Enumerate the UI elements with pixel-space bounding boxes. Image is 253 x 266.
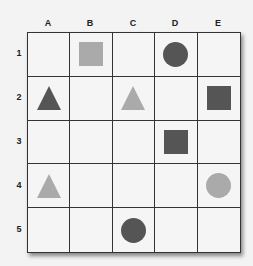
light-triangle-icon <box>37 174 61 198</box>
light-triangle-icon <box>121 86 145 110</box>
grid-cell-e3 <box>198 121 240 165</box>
grid-cell-a2 <box>28 77 70 121</box>
dark-triangle-icon <box>37 86 61 110</box>
grid-cell-d2 <box>155 77 197 121</box>
grid-cell-c5 <box>113 208 155 252</box>
grid-cell-a4 <box>28 164 70 208</box>
grid-cell-e2 <box>198 77 240 121</box>
grid-cell-e5 <box>198 208 240 252</box>
grid-cell-b5 <box>70 208 112 252</box>
grid-cell-b3 <box>70 121 112 165</box>
grid-cell-c4 <box>113 164 155 208</box>
grid-cell-d3 <box>155 121 197 165</box>
column-label-b: B <box>69 18 111 28</box>
grid-cell-d4 <box>155 164 197 208</box>
dark-circle-icon <box>163 42 188 67</box>
grid-cell-d1 <box>155 33 197 77</box>
row-label-3: 3 <box>14 136 24 146</box>
dark-square-icon <box>207 86 231 110</box>
column-label-a: A <box>27 18 69 28</box>
dark-circle-icon <box>121 218 146 243</box>
grid-cell-b1 <box>70 33 112 77</box>
grid-cell-c1 <box>113 33 155 77</box>
grid-cell-d5 <box>155 208 197 252</box>
light-circle-icon <box>206 173 231 198</box>
grid-cell-a1 <box>28 33 70 77</box>
light-square-icon <box>79 42 103 66</box>
grid-cell-b2 <box>70 77 112 121</box>
shape-grid <box>27 32 241 253</box>
column-label-c: C <box>112 18 154 28</box>
row-label-1: 1 <box>14 48 24 58</box>
grid-cell-e1 <box>198 33 240 77</box>
grid-cell-e4 <box>198 164 240 208</box>
grid-cell-a3 <box>28 121 70 165</box>
grid-cell-c2 <box>113 77 155 121</box>
row-label-2: 2 <box>14 92 24 102</box>
grid-cell-a5 <box>28 208 70 252</box>
grid-cell-c3 <box>113 121 155 165</box>
column-label-d: D <box>154 18 196 28</box>
row-label-5: 5 <box>14 224 24 234</box>
grid-cell-b4 <box>70 164 112 208</box>
row-label-4: 4 <box>14 180 24 190</box>
dark-square-icon <box>164 130 188 154</box>
column-label-e: E <box>197 18 239 28</box>
